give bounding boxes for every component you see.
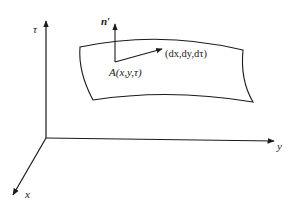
y-axis-label: y bbox=[276, 140, 282, 152]
normal-label: n′ bbox=[101, 15, 110, 27]
tangent-label: (dx,dy,dτ) bbox=[165, 48, 208, 60]
surface-diagram: τ y x n′ (dx,dy,dτ) A(x,y,τ) bbox=[0, 0, 288, 206]
y-axis bbox=[46, 138, 274, 141]
tau-axis-label: τ bbox=[33, 23, 38, 35]
tangent-vector bbox=[115, 49, 162, 62]
x-axis-label: x bbox=[24, 188, 30, 200]
point-label: A(x,y,τ) bbox=[108, 66, 142, 79]
x-axis bbox=[13, 138, 46, 195]
